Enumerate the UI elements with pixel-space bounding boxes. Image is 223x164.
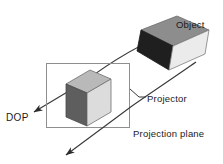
oblique-projection-diagram: Object DOP Projector Projection plane: [0, 0, 223, 164]
projected-cube: [66, 70, 111, 126]
label-dop: DOP: [6, 112, 29, 123]
label-projection-plane: Projection plane: [133, 128, 204, 139]
label-object: Object: [176, 19, 205, 30]
label-projector: Projector: [147, 93, 187, 104]
projector-leader-line: [130, 89, 146, 97]
